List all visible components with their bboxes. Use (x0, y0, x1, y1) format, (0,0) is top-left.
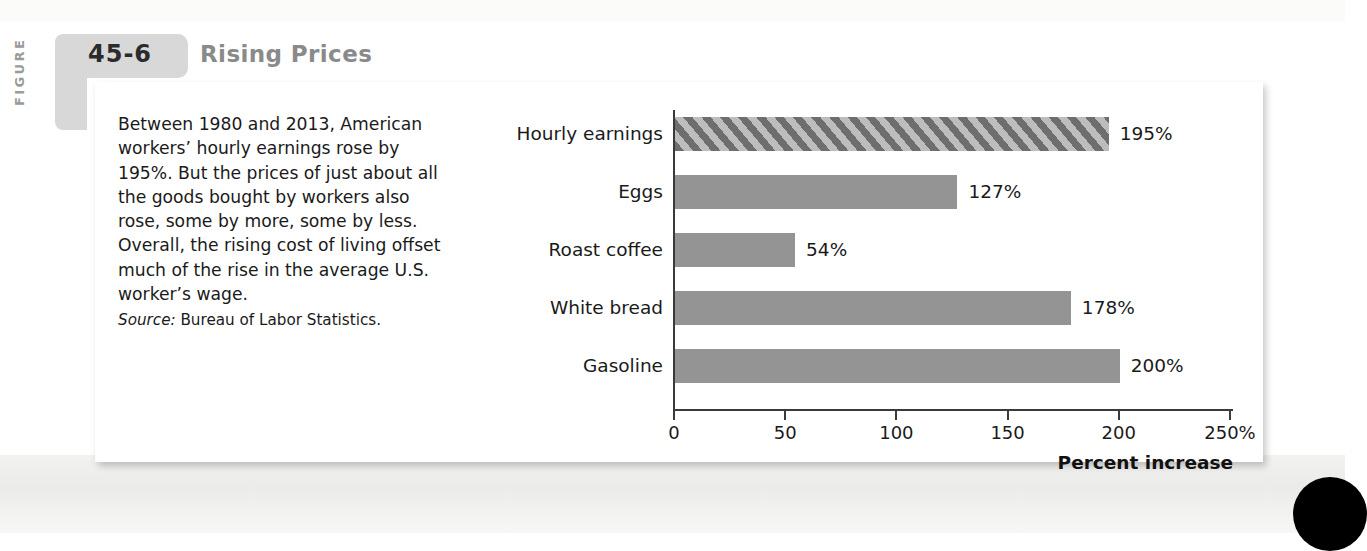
x-axis-tick (1229, 411, 1231, 420)
bar-category-label: Gasoline (500, 338, 663, 394)
bar-value-label: 127% (968, 164, 1021, 220)
page-top-band (0, 0, 1345, 22)
x-axis-tick-label: 0 (668, 422, 679, 443)
figure-caption: Between 1980 and 2013, American workers’… (118, 112, 456, 306)
x-axis-tick-label: 100 (879, 422, 913, 443)
bar-value-label: 195% (1120, 106, 1173, 162)
bar-category-label: Hourly earnings (500, 106, 663, 162)
page-corner-artifact (1293, 477, 1367, 551)
source-value: Bureau of Labor Statistics. (176, 311, 381, 329)
bar-value-label: 54% (806, 222, 847, 278)
figure-tab-label: FIGURE (12, 6, 32, 106)
bar (675, 291, 1071, 325)
bar-row: Eggs127% (500, 164, 1260, 220)
bar-category-label: Eggs (500, 164, 663, 220)
x-axis-title: Percent increase (1058, 452, 1233, 473)
figure-source: Source: Bureau of Labor Statistics. (118, 310, 478, 330)
figure-title: Rising Prices (200, 41, 372, 67)
bar-chart: Hourly earnings195%Eggs127%Roast coffee5… (500, 100, 1260, 450)
x-axis-tick (673, 411, 675, 420)
x-axis-tick (895, 411, 897, 420)
x-axis-tick (1007, 411, 1009, 420)
x-axis-tick-label: 50 (774, 422, 797, 443)
bar-row: Roast coffee54% (500, 222, 1260, 278)
figure-number: 45-6 (88, 40, 152, 68)
bar-value-label: 178% (1082, 280, 1135, 336)
x-axis-tick (784, 411, 786, 420)
bar (675, 175, 957, 209)
bar (675, 349, 1120, 383)
x-axis-tick-label: 150 (990, 422, 1024, 443)
x-axis-line (673, 409, 1233, 411)
bar-row: Hourly earnings195% (500, 106, 1260, 162)
bar-category-label: Roast coffee (500, 222, 663, 278)
source-label: Source: (118, 311, 176, 329)
x-axis-tick (1118, 411, 1120, 420)
bar (675, 233, 795, 267)
bar (675, 117, 1109, 151)
x-axis-tick-label: 250% (1204, 422, 1255, 443)
bar-row: White bread178% (500, 280, 1260, 336)
x-axis-tick-label: 200 (1102, 422, 1136, 443)
bar-row: Gasoline200% (500, 338, 1260, 394)
bar-category-label: White bread (500, 280, 663, 336)
bar-value-label: 200% (1131, 338, 1184, 394)
